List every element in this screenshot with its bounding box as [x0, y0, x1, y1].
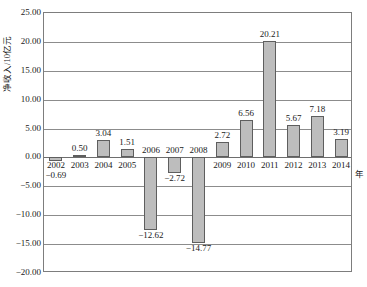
y-axis-tick-labels: 25.0020.0015.0010.005.000.00−5.00−10.00−…	[0, 0, 41, 287]
y-tick-label: 25.00	[3, 8, 41, 17]
bar	[240, 120, 253, 158]
y-tick-label: 15.00	[3, 66, 41, 75]
y-tick-label: 20.00	[3, 37, 41, 46]
bar-value-label: −12.62	[131, 231, 171, 240]
bar-value-label: 3.19	[321, 128, 361, 137]
gridline	[44, 42, 351, 43]
bar	[73, 155, 86, 158]
x-tick-label: 2008	[182, 146, 216, 155]
x-tick-label: 2014	[324, 161, 358, 170]
y-tick-label: 10.00	[3, 95, 41, 104]
bar	[168, 157, 181, 173]
bar-value-label: 5.67	[274, 114, 314, 123]
bar	[216, 142, 229, 158]
bar-value-label: −0.69	[36, 171, 76, 180]
bar-value-label: −14.77	[179, 244, 219, 253]
bar-value-label: 3.04	[83, 129, 123, 138]
bar	[192, 157, 205, 242]
y-tick-label: −20.00	[3, 268, 41, 277]
gridline	[44, 100, 351, 101]
y-tick-label: −10.00	[3, 210, 41, 219]
bar	[121, 149, 134, 158]
gridline	[44, 71, 351, 72]
bar-value-label: 6.56	[226, 109, 266, 118]
bar	[263, 41, 276, 158]
bar-value-label: 20.21	[250, 30, 290, 39]
y-tick-label: −5.00	[3, 181, 41, 190]
bar-value-label: 0.50	[60, 144, 100, 153]
bar	[335, 139, 348, 157]
bar-value-label: 2.72	[202, 131, 242, 140]
y-tick-label: 0.00	[3, 152, 41, 161]
bar	[144, 157, 157, 230]
bar	[287, 125, 300, 158]
bar-value-label: −2.72	[155, 174, 195, 183]
bar-value-label: 7.18	[297, 105, 337, 114]
y-tick-label: 5.00	[3, 124, 41, 133]
x-tick-label: 2005	[110, 161, 144, 170]
bar-chart: 净收入/10亿元 25.0020.0015.0010.005.000.00−5.…	[0, 0, 367, 287]
y-tick-label: −15.00	[3, 239, 41, 248]
x-axis-unit-label: 年	[355, 170, 364, 179]
plot-area: −0.6920020.5020033.0420041.512005−12.622…	[43, 12, 352, 272]
